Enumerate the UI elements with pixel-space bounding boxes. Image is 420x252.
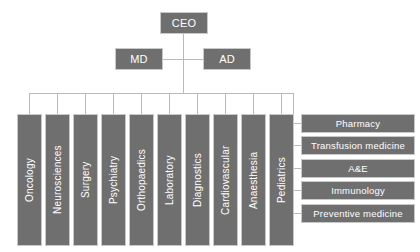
connector-drop-10 <box>281 93 282 114</box>
connector-support-stub-2 <box>293 145 301 146</box>
node-support-label: Preventive medicine <box>313 209 402 219</box>
connector-ad-stub <box>183 59 204 60</box>
node-department-neurosciences[interactable]: Neurosciences <box>45 114 70 246</box>
connector-drop-8 <box>225 93 226 114</box>
connector-department-bus <box>29 93 294 94</box>
connector-drop-4 <box>113 93 114 114</box>
node-support-label: Transfusion medicine <box>311 141 405 151</box>
node-department-label: Cardiovascular <box>221 145 231 215</box>
node-department-orthopaedics[interactable]: Orthopaedics <box>129 114 154 246</box>
node-department-label: Neurosciences <box>53 146 63 215</box>
node-department-laboratory[interactable]: Laboratory <box>157 114 182 246</box>
org-chart: CEO MD AD Oncology Neurosciences Surgery… <box>0 0 420 252</box>
node-ceo[interactable]: CEO <box>160 12 208 34</box>
connector-md-stub <box>163 59 184 60</box>
node-department-psychiatry[interactable]: Psychiatry <box>101 114 126 246</box>
node-support-label: Immunology <box>331 186 385 196</box>
node-department-label: Laboratory <box>165 155 175 205</box>
node-support-label: A&E <box>348 164 368 174</box>
node-md[interactable]: MD <box>115 48 163 70</box>
connector-drop-6 <box>169 93 170 114</box>
node-department-label: Psychiatry <box>109 156 119 204</box>
node-ceo-label: CEO <box>172 18 196 29</box>
node-ad[interactable]: AD <box>203 48 251 70</box>
node-department-label: Orthopaedics <box>137 149 147 211</box>
connector-drop-5 <box>141 93 142 114</box>
node-support-ae[interactable]: A&E <box>301 159 415 178</box>
node-department-surgery[interactable]: Surgery <box>73 114 98 246</box>
node-department-pediatrics[interactable]: Pediatrics <box>269 114 294 246</box>
connector-drop-7 <box>197 93 198 114</box>
node-support-immunology[interactable]: Immunology <box>301 181 415 200</box>
node-department-label: Oncology <box>25 158 35 202</box>
node-support-label: Pharmacy <box>336 119 380 129</box>
node-ad-label: AD <box>219 54 235 65</box>
node-department-label: Diagnostics <box>193 153 203 207</box>
connector-drop-1 <box>29 93 30 114</box>
node-md-label: MD <box>130 54 148 65</box>
connector-drop-3 <box>85 93 86 114</box>
node-department-anaesthesia[interactable]: Anaesthesia <box>241 114 266 246</box>
node-support-pharmacy[interactable]: Pharmacy <box>301 114 415 133</box>
node-department-oncology[interactable]: Oncology <box>17 114 42 246</box>
node-department-label: Pediatrics <box>277 157 287 203</box>
node-department-label: Anaesthesia <box>249 151 259 208</box>
node-support-preventive-medicine[interactable]: Preventive medicine <box>301 204 415 223</box>
connector-support-stub-3 <box>293 168 301 169</box>
connector-drop-2 <box>57 93 58 114</box>
connector-support-stub-5 <box>293 213 301 214</box>
node-department-label: Surgery <box>81 162 91 198</box>
node-department-cardiovascular[interactable]: Cardiovascular <box>213 114 238 246</box>
connector-support-stub-1 <box>293 123 301 124</box>
connector-drop-9 <box>253 93 254 114</box>
connector-support-stub-4 <box>293 190 301 191</box>
connector-ceo-spine <box>183 34 184 93</box>
node-support-transfusion-medicine[interactable]: Transfusion medicine <box>301 136 415 155</box>
node-department-diagnostics[interactable]: Diagnostics <box>185 114 210 246</box>
